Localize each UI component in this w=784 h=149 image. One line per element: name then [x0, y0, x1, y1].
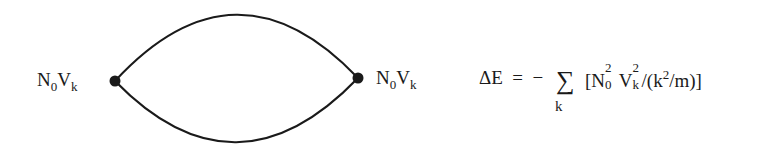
n-symbol: N [591, 70, 605, 91]
right-vertex-label: N0Vk [376, 68, 416, 87]
left-vertex-label: N0Vk [37, 70, 77, 89]
upper-propagator-line [115, 15, 358, 81]
close-bracket: ] [696, 70, 702, 91]
k-superscript: 2 [663, 67, 670, 82]
per-m: /m) [669, 70, 695, 91]
summation-index: k [555, 99, 563, 114]
summation-symbol: ∑ [556, 68, 575, 94]
n-scripts: 20 [605, 68, 614, 87]
delta-e: ΔE [479, 67, 503, 88]
n-subscript: 0 [51, 79, 58, 94]
equation-rhs: [N20 V2k/(k2/m)] [585, 68, 702, 90]
right-vertex-dot [353, 73, 364, 84]
n-subscript: 0 [605, 78, 612, 91]
equation-lhs: ΔE = − [479, 68, 543, 87]
v-symbol: V [619, 70, 633, 91]
n-symbol: N [376, 67, 390, 88]
n-symbol: N [37, 69, 51, 90]
v-subscript: k [633, 78, 640, 91]
lower-propagator-line [115, 78, 358, 142]
v-scripts: 2k [633, 68, 642, 87]
k-symbol: k [653, 70, 663, 91]
n-subscript: 0 [390, 77, 397, 92]
n-superscript: 2 [605, 61, 612, 74]
v-symbol: V [57, 69, 71, 90]
equals-sign: = [512, 67, 523, 88]
v-subscript: k [71, 79, 78, 94]
left-vertex-dot [110, 76, 121, 87]
v-superscript: 2 [633, 61, 640, 74]
minus-sign: − [533, 67, 544, 88]
v-symbol: V [396, 67, 410, 88]
v-subscript: k [410, 77, 417, 92]
